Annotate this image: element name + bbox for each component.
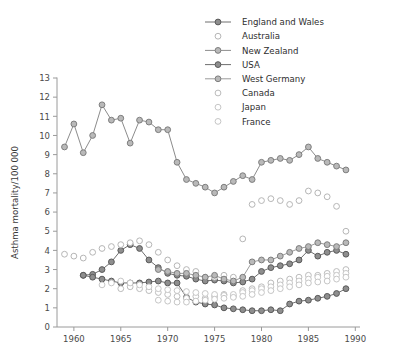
data-point [306, 188, 312, 194]
data-point [80, 272, 86, 278]
data-point [306, 144, 312, 150]
data-point [212, 296, 218, 302]
data-point [215, 119, 221, 125]
series-line-2 [65, 105, 346, 193]
data-point [184, 177, 190, 183]
data-point [109, 280, 115, 286]
data-point [193, 290, 199, 296]
legend-label-7: France [242, 117, 271, 127]
data-point [202, 274, 208, 280]
data-point [324, 249, 330, 255]
data-point [155, 249, 161, 255]
data-point [249, 292, 255, 298]
y-tick-label: 5 [45, 226, 50, 236]
data-point [155, 267, 161, 273]
x-tick-label: 1970 [157, 334, 179, 344]
data-point [287, 301, 293, 307]
data-point [99, 246, 105, 252]
x-tick-label: 1980 [251, 334, 273, 344]
asthma-mortality-chart: 0123456789101112131960196519701975198019… [0, 0, 399, 357]
y-tick-label: 2 [45, 284, 50, 294]
data-point [259, 198, 265, 204]
data-point [334, 276, 340, 282]
data-point [324, 293, 330, 299]
legend-label-6: Japan [241, 102, 266, 112]
data-point [80, 255, 86, 261]
data-point [315, 156, 321, 162]
data-point [174, 270, 180, 276]
data-point [259, 257, 265, 263]
y-tick-label: 10 [39, 131, 50, 141]
data-point [118, 286, 124, 292]
data-point [230, 294, 236, 300]
data-point [240, 236, 246, 242]
data-point [287, 261, 293, 267]
x-tick-label: 1985 [298, 334, 320, 344]
data-point [296, 198, 302, 204]
data-point [118, 278, 124, 284]
data-point [137, 238, 143, 244]
data-point [240, 307, 246, 313]
data-point [174, 159, 180, 165]
y-tick-label: 6 [45, 207, 50, 217]
data-point [277, 198, 283, 204]
data-point [80, 150, 86, 156]
data-point [221, 276, 227, 282]
data-point [268, 307, 274, 313]
data-point [306, 297, 312, 303]
data-point [268, 196, 274, 202]
chart-canvas: 0123456789101112131960196519701975198019… [0, 0, 399, 357]
legend-label-5: Canada [242, 88, 275, 98]
data-point [306, 244, 312, 250]
data-point [249, 177, 255, 183]
data-point [212, 302, 218, 308]
data-point [193, 180, 199, 186]
data-point [165, 298, 171, 304]
data-point [287, 157, 293, 163]
data-point [259, 290, 265, 296]
y-tick-label: 11 [39, 112, 50, 122]
data-point [174, 263, 180, 269]
legend-label-1: Australia [242, 31, 280, 41]
data-point [343, 228, 349, 234]
data-point [215, 104, 221, 110]
data-point [193, 298, 199, 304]
data-point [62, 144, 68, 150]
data-point [296, 298, 302, 304]
data-point [215, 76, 221, 82]
data-point [137, 282, 143, 288]
data-point [240, 173, 246, 179]
data-point [287, 249, 293, 255]
data-point [249, 202, 255, 208]
data-point [146, 257, 152, 263]
data-point [62, 251, 68, 257]
data-point [174, 299, 180, 305]
data-point [221, 295, 227, 301]
data-point [334, 291, 340, 297]
data-point [334, 163, 340, 169]
y-tick-label: 4 [45, 246, 50, 256]
data-point [259, 269, 265, 275]
data-point [249, 276, 255, 282]
y-tick-label: 12 [39, 92, 50, 102]
data-point [165, 280, 171, 286]
data-point [315, 253, 321, 259]
legend-label-2: New Zealand [242, 46, 298, 56]
y-axis-title: Asthma mortality/100 000 [10, 146, 20, 259]
data-point [324, 278, 330, 284]
data-point [259, 159, 265, 165]
y-tick-label: 8 [45, 169, 50, 179]
data-point [287, 202, 293, 208]
data-point [230, 179, 236, 185]
data-point [230, 306, 236, 312]
y-tick-label: 3 [45, 265, 50, 275]
data-point [215, 62, 221, 68]
data-point [71, 121, 77, 127]
legend-label-3: USA [242, 60, 260, 70]
data-point [137, 117, 143, 123]
data-point [146, 242, 152, 248]
data-point [202, 297, 208, 303]
data-point [90, 249, 96, 255]
data-point [155, 286, 161, 292]
data-point [212, 272, 218, 278]
